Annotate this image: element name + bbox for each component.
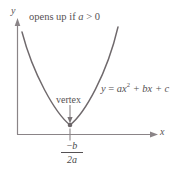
parabola-figure: y x opens up if a > 0 y = ax2 + bx + c v… (0, 0, 177, 174)
equation-term1: ax (117, 83, 127, 94)
equation-equals: = (106, 83, 117, 94)
fraction-denominator: 2a (59, 154, 85, 166)
y-axis-arrowhead (15, 18, 21, 26)
vertex-label: vertex (56, 95, 81, 105)
fraction-numerator-variable: b (72, 140, 77, 151)
caption-prefix: opens up if (29, 11, 78, 22)
y-axis-label: y (11, 6, 15, 16)
fraction-numerator: −b (59, 141, 85, 152)
equation-term3: + c (152, 83, 169, 94)
equation-term2: + bx (130, 83, 152, 94)
equation-label: y = ax2 + bx + c (101, 82, 169, 94)
vertex-point-marker (68, 123, 73, 128)
x-axis-arrowhead (150, 132, 158, 138)
caption-suffix: > 0 (84, 11, 100, 22)
caption-opens-up: opens up if a > 0 (29, 12, 100, 23)
x-axis-label: x (160, 127, 164, 137)
axis-of-symmetry-fraction: −b 2a (59, 141, 85, 165)
